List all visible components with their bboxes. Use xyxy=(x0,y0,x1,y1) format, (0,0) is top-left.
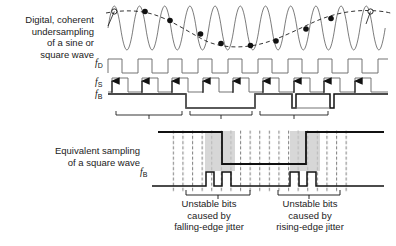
caption-equivalent-sampling: Equivalent sampling of a square wave xyxy=(20,145,140,168)
fb-sub: B xyxy=(98,93,103,100)
signal-label-fs: fS xyxy=(95,77,102,88)
caption-digital-undersampling: Digital, coherent undersampling of a sin… xyxy=(2,14,94,60)
fb-bitstream-trace xyxy=(108,94,388,108)
fd-sub: D xyxy=(98,62,103,69)
signal-label-fb: fB xyxy=(95,89,102,100)
fb-region-brackets xyxy=(116,111,328,119)
sine-wave-trace xyxy=(108,6,385,50)
fb2-sub: B xyxy=(143,171,148,178)
signal-label-fd: fD xyxy=(95,58,103,69)
sampling-dot-grid xyxy=(167,130,353,192)
fs-sub: S xyxy=(98,81,103,88)
figure-canvas: Digital, coherent undersampling of a sin… xyxy=(0,0,396,246)
fs-clock-trace xyxy=(108,78,388,93)
fd-clock-trace xyxy=(108,59,388,73)
signal-label-fb-equivalent: fB xyxy=(140,167,147,178)
note-rising-edge-jitter: Unstable bits caused by rising-edge jitt… xyxy=(258,198,362,233)
note-falling-edge-jitter: Unstable bits caused by falling-edge jit… xyxy=(157,198,261,233)
